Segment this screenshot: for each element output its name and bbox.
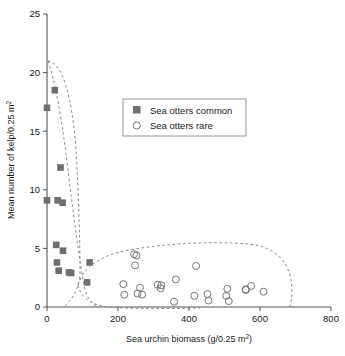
data-point-common (86, 259, 93, 266)
y-tick-label: 25 (29, 8, 40, 19)
data-point-common (59, 199, 66, 206)
y-axis-label: Mean number of kelp/0.25 m2 (5, 101, 17, 220)
y-tick-label: 0 (35, 301, 40, 312)
y-tick-label: 20 (29, 67, 40, 78)
x-axis-label: Sea urchin biomass (g/0.25 m2) (126, 333, 252, 345)
legend-label-rare: Sea otters rare (150, 120, 213, 131)
x-tick-label: 600 (252, 313, 268, 324)
y-tick-label: 5 (35, 243, 40, 254)
y-tick-label: 10 (29, 184, 40, 195)
data-point-common (84, 279, 91, 286)
data-point-common (44, 104, 51, 111)
data-point-common (60, 247, 67, 254)
data-point-common (54, 259, 61, 266)
legend-label-common: Sea otters common (150, 105, 232, 116)
scatter-plot-figure: 0510152025 0200400600800 Sea otters comm… (0, 0, 345, 356)
data-point-common (57, 164, 64, 171)
data-point-common (44, 197, 51, 204)
legend: Sea otters common Sea otters rare (123, 99, 246, 136)
data-point-common (52, 87, 59, 94)
data-point-common (53, 242, 60, 249)
x-tick-label: 200 (110, 313, 126, 324)
data-point-common (55, 267, 62, 274)
x-tick-label: 400 (181, 313, 197, 324)
data-point-common (68, 270, 75, 277)
y-tick-label: 15 (29, 126, 40, 137)
x-tick-label: 800 (323, 313, 339, 324)
x-tick-label: 0 (44, 313, 49, 324)
legend-marker-filled-square-icon (133, 106, 141, 114)
plot-background (0, 0, 345, 356)
